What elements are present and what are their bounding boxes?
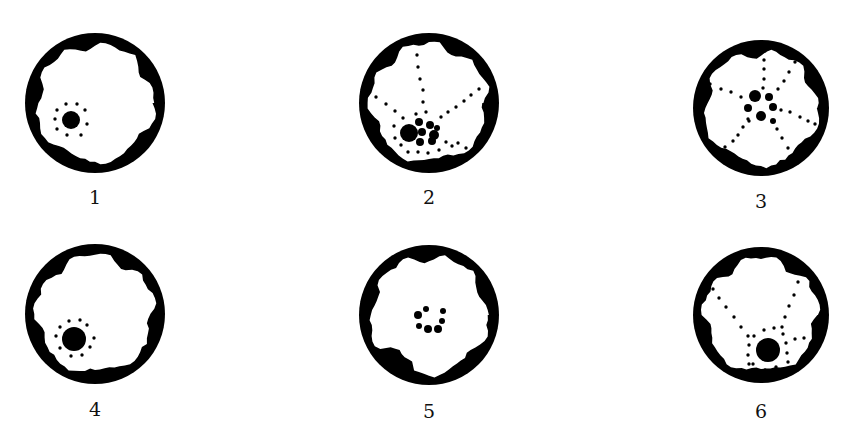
fiber-dot	[426, 151, 429, 154]
fiber-dot	[762, 58, 765, 61]
fiber-dot	[88, 345, 91, 348]
fiber-dot	[401, 116, 404, 119]
fiber-dot	[813, 122, 816, 125]
fiber-dot	[731, 139, 734, 142]
fiber-dot	[75, 102, 78, 105]
fiber-dot	[780, 136, 783, 139]
nucleus	[416, 323, 422, 329]
fiber-dot	[796, 280, 799, 283]
fiber-dot	[792, 293, 795, 296]
fiber-dot	[55, 127, 58, 130]
fiber-dot	[393, 136, 396, 139]
fiber-dot	[779, 108, 782, 111]
fiber-dot	[741, 125, 744, 128]
fiber-dot	[54, 334, 57, 337]
fiber-dot	[462, 99, 465, 102]
fiber-dot	[788, 372, 791, 375]
fiber-dot	[69, 354, 72, 357]
fiber-dot	[79, 133, 82, 136]
fiber-dot	[55, 108, 58, 111]
nucleus	[765, 93, 773, 101]
fiber-dot	[787, 70, 790, 73]
nucleus	[769, 103, 777, 111]
panel-label-5: 5	[409, 400, 449, 422]
fiber-dot	[477, 87, 480, 90]
fiber-dot	[793, 60, 796, 63]
fiber-dot	[788, 110, 791, 113]
panel-label-4: 4	[75, 398, 115, 420]
cell-panel-5	[359, 245, 499, 385]
fiber-dot	[729, 90, 732, 93]
fiber-dot	[763, 49, 766, 52]
nucleus	[62, 327, 86, 351]
fiber-dot	[781, 332, 784, 335]
fiber-dot	[743, 370, 746, 373]
cell-panel-2	[359, 33, 499, 173]
fiber-dot	[780, 372, 783, 375]
panel-label-3: 3	[741, 190, 781, 212]
fiber-dot	[784, 341, 787, 344]
fiber-dot	[53, 117, 56, 120]
fiber-dot	[747, 119, 750, 122]
nucleus	[415, 118, 423, 126]
nucleus	[418, 128, 426, 136]
fiber-dot	[58, 346, 61, 349]
cell-panel-6	[693, 247, 829, 383]
fiber-dot	[762, 67, 765, 70]
nucleus	[434, 325, 442, 333]
nucleus	[423, 306, 429, 312]
fiber-dot	[736, 133, 739, 136]
fiber-dot	[421, 88, 424, 91]
fiber-dot	[446, 110, 449, 113]
nucleus	[434, 125, 440, 131]
fiber-dot	[775, 127, 778, 130]
nucleus	[749, 90, 761, 102]
fiber-dot	[78, 318, 81, 321]
fiber-dot	[399, 143, 402, 146]
fiber-dot	[439, 115, 442, 118]
fiber-dot	[780, 325, 783, 328]
fiber-dot	[723, 145, 726, 148]
fiber-dot	[469, 93, 472, 96]
nucleus	[744, 104, 752, 112]
fiber-dot	[751, 362, 754, 365]
fiber-dot	[806, 119, 809, 122]
panel-label-1: 1	[75, 186, 115, 208]
fiber-dot	[85, 122, 88, 125]
nucleus	[416, 138, 424, 146]
fiber-dot	[92, 336, 95, 339]
fiber-dot	[724, 305, 727, 308]
fiber-dot	[464, 146, 467, 149]
fiber-dot	[83, 108, 86, 111]
fiber-dot	[793, 337, 796, 340]
fiber-dot	[752, 334, 755, 337]
fiber-dot	[424, 110, 427, 113]
fiber-dot	[802, 336, 805, 339]
fiber-dot	[785, 351, 788, 354]
nucleus	[428, 137, 436, 145]
fiber-dot	[776, 87, 779, 90]
nucleus	[62, 111, 80, 129]
fiber-dot	[746, 334, 749, 337]
fiber-dot	[762, 328, 765, 331]
fiber-dot	[719, 87, 722, 90]
fiber-dot	[736, 369, 739, 372]
fiber-dot	[65, 133, 68, 136]
panel-label-6: 6	[741, 400, 781, 422]
fiber-dot	[414, 112, 417, 115]
panel-label-2: 2	[409, 186, 449, 208]
fiber-dot	[454, 105, 457, 108]
fiber-dot	[783, 370, 786, 373]
fiber-dot	[416, 65, 419, 68]
nucleus	[770, 118, 776, 124]
fiber-dot	[421, 100, 424, 103]
fiber-dot	[774, 365, 777, 368]
fiber-dot	[786, 146, 789, 149]
nucleus	[440, 308, 446, 314]
fiber-dot	[717, 296, 720, 299]
fiber-dot	[708, 82, 711, 85]
nucleus	[400, 124, 418, 142]
fiber-dot	[772, 326, 775, 329]
nucleus	[424, 325, 432, 333]
fiber-dot	[450, 144, 453, 147]
